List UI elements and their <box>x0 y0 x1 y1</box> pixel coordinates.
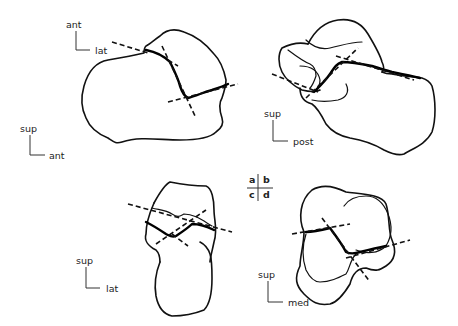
orientation-label-horizontal: lat <box>95 45 107 56</box>
bone-outline-lower <box>155 242 212 316</box>
key-label-c: c <box>249 189 255 200</box>
orientation-axis <box>76 31 90 50</box>
dashed-axis <box>172 234 188 246</box>
orientation-sup-ant: sup ant <box>20 123 65 161</box>
orientation-label-horizontal: ant <box>49 150 65 161</box>
anatomical-figure: ant lat sup ant sup post <box>0 0 458 326</box>
joint-line <box>146 50 228 98</box>
orientation-axis <box>273 120 288 141</box>
orientation-sup-post: sup post <box>264 108 314 147</box>
orientation-axis <box>30 135 45 155</box>
orientation-label-horizontal: lat <box>106 283 118 294</box>
orientation-axis <box>86 267 100 288</box>
orientation-sup-lat: sup lat <box>76 255 118 294</box>
key-label-a: a <box>249 174 255 185</box>
key-label-d: d <box>263 189 270 200</box>
orientation-label-vertical: sup <box>258 269 275 280</box>
dashed-axis <box>112 42 148 53</box>
bone-inner-line <box>152 208 212 226</box>
bone-inner-line <box>306 40 362 49</box>
panel-key: a b c d <box>247 174 273 201</box>
orientation-label-vertical: sup <box>20 123 37 134</box>
joint-line <box>146 222 214 237</box>
dashed-axis <box>346 240 410 258</box>
dashed-axis <box>306 48 358 98</box>
panel-c: sup lat <box>76 182 232 316</box>
joint-line <box>314 62 420 92</box>
orientation-label-horizontal: post <box>293 136 314 147</box>
orientation-ant-lat: ant lat <box>66 19 107 56</box>
orientation-label-horizontal: med <box>288 297 309 308</box>
dashed-axis <box>272 74 318 92</box>
orientation-label-vertical: sup <box>76 255 93 266</box>
joint-line <box>306 228 386 254</box>
key-label-b: b <box>263 174 270 185</box>
bone-outline-upper-left <box>145 203 160 262</box>
orientation-label-vertical: ant <box>66 19 82 30</box>
orientation-axis <box>268 281 283 302</box>
panel-a: ant lat sup ant <box>20 19 238 161</box>
orientation-sup-med: sup med <box>258 269 309 308</box>
dashed-axis <box>168 84 238 102</box>
panel-d: sup med <box>258 186 410 308</box>
bone-outline-head <box>308 20 384 72</box>
orientation-label-vertical: sup <box>264 108 281 119</box>
panel-b: sup post <box>264 20 435 155</box>
dashed-axis <box>322 218 370 282</box>
bone-inner-line <box>344 196 391 253</box>
